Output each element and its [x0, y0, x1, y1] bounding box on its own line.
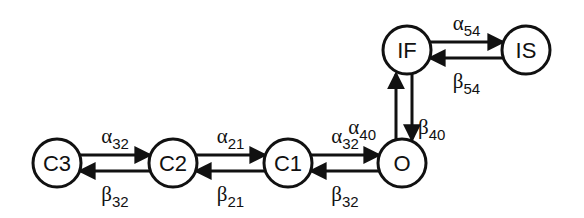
state-label: O — [393, 151, 410, 176]
rate-symbol: β — [418, 115, 429, 139]
state-node-if: IF — [383, 26, 431, 74]
rate-symbol: α — [101, 124, 112, 148]
rate-label: β54 — [453, 69, 480, 97]
rate-label: α32 — [101, 124, 129, 152]
state-node-c1: C1 — [264, 139, 312, 187]
rate-label: β21 — [217, 182, 244, 210]
state-diagram: C3C2C1OIFIS α32β32α21β21α32β32α40β40α54β… — [0, 0, 584, 218]
rate-subscript: 32 — [112, 193, 129, 210]
rate-subscript: 40 — [429, 126, 446, 143]
rate-subscript: 40 — [359, 126, 376, 143]
rate-subscript: 32 — [112, 135, 129, 152]
rate-subscript: 21 — [228, 135, 245, 152]
rate-subscript: 21 — [228, 193, 245, 210]
rate-subscript: 32 — [342, 193, 359, 210]
rate-symbol: β — [217, 182, 228, 206]
state-node-c2: C2 — [149, 139, 197, 187]
rate-symbol: β — [331, 182, 342, 206]
rate-subscript: 54 — [464, 22, 481, 39]
rate-symbol: α — [453, 11, 464, 35]
state-label: IF — [397, 38, 417, 63]
rate-label: β40 — [418, 115, 445, 143]
rate-label: α40 — [348, 115, 376, 143]
state-label: C3 — [43, 151, 71, 176]
rate-symbol: α — [217, 124, 228, 148]
state-node-c3: C3 — [33, 139, 81, 187]
rate-label: β32 — [101, 182, 128, 210]
rate-label: α21 — [217, 124, 245, 152]
state-node-o: O — [378, 139, 426, 187]
rate-symbol: β — [453, 69, 464, 93]
rate-subscript: 54 — [464, 80, 481, 97]
rate-symbol: α — [331, 124, 342, 148]
rate-label: β32 — [331, 182, 358, 210]
state-label: C1 — [274, 151, 302, 176]
rate-label: α54 — [453, 11, 481, 39]
state-diagram-canvas: C3C2C1OIFIS α32β32α21β21α32β32α40β40α54β… — [0, 0, 584, 218]
state-node-is: IS — [502, 26, 550, 74]
rate-symbol: α — [348, 115, 359, 139]
state-label: IS — [516, 38, 537, 63]
state-label: C2 — [159, 151, 187, 176]
rate-symbol: β — [101, 182, 112, 206]
